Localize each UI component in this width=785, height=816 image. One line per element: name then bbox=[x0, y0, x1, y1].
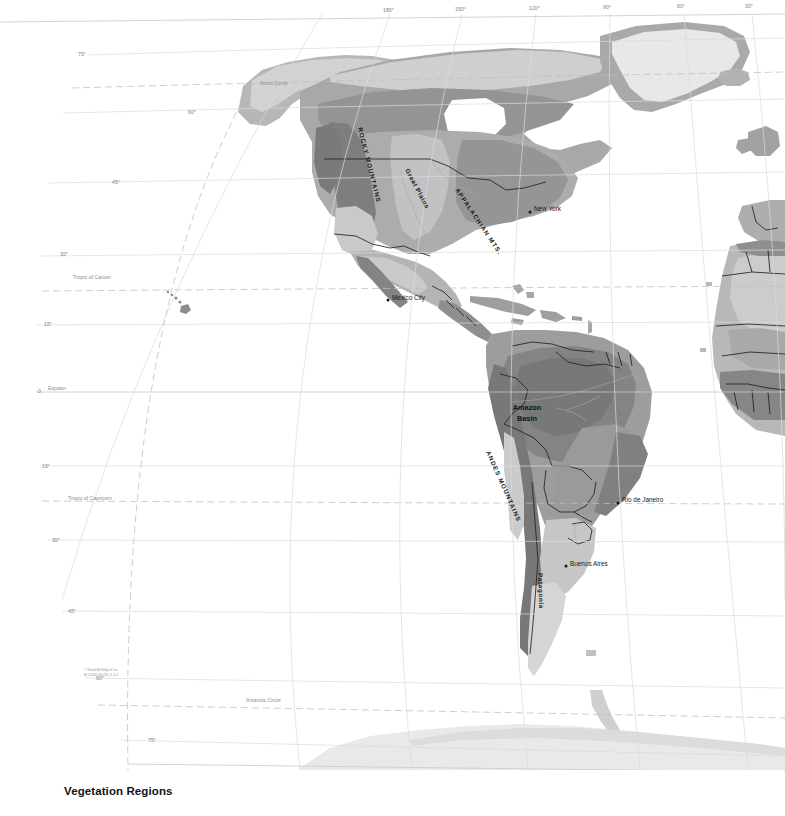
lon-label-top-90: 90° bbox=[603, 4, 611, 10]
lon-label-top-60: 60° bbox=[677, 3, 685, 9]
label-tropic-of-cancer: Tropic of Cancer bbox=[73, 274, 111, 280]
lat-label-0: 0 bbox=[38, 388, 41, 394]
feature-label-amazon-basin-line1: Amazon bbox=[513, 403, 542, 412]
world-vegetation-map-page: World Vegetation bbox=[0, 0, 785, 816]
city-dot-mexico-city bbox=[387, 299, 390, 302]
city-label-mexico-city: Mexico City bbox=[392, 294, 426, 302]
lat-label-15s: 15° bbox=[42, 463, 50, 469]
lat-label-15n: 15° bbox=[44, 321, 52, 327]
lat-label-75n: 75° bbox=[78, 51, 86, 57]
lat-label-30s: 30° bbox=[52, 537, 60, 543]
city-dot-buenos-aires bbox=[565, 565, 568, 568]
lon-label-top-180: 180° bbox=[383, 7, 394, 13]
legend-title: Vegetation Regions bbox=[64, 785, 173, 797]
city-label-buenos-aires: Buenos Aires bbox=[570, 560, 608, 567]
city-label-new-york: New York bbox=[534, 205, 562, 212]
island-canary bbox=[706, 282, 712, 286]
island-falklands bbox=[586, 650, 596, 656]
map-canvas[interactable]: 180° 150° 120° 90° 60° 30° 180° 150° 120… bbox=[0, 0, 785, 770]
label-equator: Equator bbox=[48, 385, 66, 391]
lat-label-60n: 60° bbox=[188, 109, 196, 115]
lon-label-top-30: 30° bbox=[745, 3, 753, 9]
lon-label-top-120: 120° bbox=[529, 5, 540, 11]
lat-label-45n: 45° bbox=[112, 179, 120, 185]
city-dot-rio-de-janeiro bbox=[617, 502, 620, 505]
legend-swatch-strip bbox=[0, 810, 785, 816]
lat-label-75s: 75° bbox=[148, 737, 156, 743]
label-tropic-of-capricorn: Tropic of Capricorn bbox=[68, 495, 112, 501]
credit-line-1: © Rand McNally & Co. bbox=[84, 668, 118, 672]
label-arctic-circle: Arctic Circle bbox=[260, 80, 288, 86]
lat-label-45s: 45° bbox=[68, 608, 76, 614]
lat-label-30n: 30° bbox=[60, 251, 68, 257]
feature-label-amazon-basin-line2: Basin bbox=[517, 414, 538, 423]
island-cape-verde bbox=[700, 348, 706, 352]
city-label-rio-de-janeiro: Rio de Janeiro bbox=[622, 496, 664, 503]
lon-label-top-150: 150° bbox=[455, 6, 466, 12]
legend-panel: Vegetation Regions bbox=[0, 770, 785, 816]
city-dot-new-york bbox=[529, 211, 532, 214]
map-credit: © Rand McNally & Co. M-15000-IN-(5L)-1-1… bbox=[84, 668, 118, 677]
credit-line-2: M-15000-IN-(5L)-1-1-1 bbox=[84, 673, 118, 677]
label-antarctic-circle: Antarctic Circle bbox=[246, 697, 281, 703]
